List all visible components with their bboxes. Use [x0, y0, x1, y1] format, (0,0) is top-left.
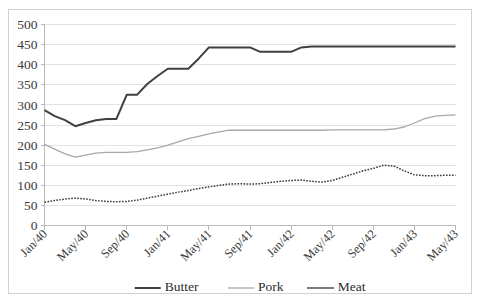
- x-tick-label: Sep/41: [221, 227, 255, 261]
- y-tick-label: 450: [17, 37, 38, 52]
- series-line-meat: [45, 165, 456, 202]
- x-axis: Jan/40May/40Sep/40Jan/41May/41Sep/41Jan/…: [17, 226, 461, 264]
- x-tick-label: Sep/40: [98, 227, 132, 261]
- x-tick-label: May/40: [54, 227, 91, 264]
- x-tick-label: Jan/43: [387, 227, 420, 260]
- y-tick-label: 400: [17, 57, 38, 72]
- series-line-butter: [45, 47, 456, 127]
- x-tick-label: May/43: [424, 227, 461, 264]
- x-tick-label: Jan/42: [264, 227, 297, 260]
- gridlines: [45, 25, 456, 226]
- y-tick-label: 500: [17, 17, 38, 32]
- legend-label-pork: Pork: [258, 279, 284, 294]
- chart-legend: ButterPorkMeat: [135, 279, 366, 294]
- x-tick-label: Jan/41: [141, 227, 174, 260]
- chart-canvas: 050100150200250300350400450500 Jan/40May…: [0, 0, 482, 303]
- legend-label-meat: Meat: [338, 279, 366, 294]
- x-tick-label: May/42: [301, 227, 338, 264]
- y-tick-label: 200: [17, 138, 38, 153]
- x-tick-label: Sep/42: [345, 227, 379, 261]
- data-series: [45, 47, 456, 203]
- y-tick-label: 150: [17, 158, 38, 173]
- y-tick-label: 50: [24, 198, 38, 213]
- x-tick-label: May/41: [177, 227, 214, 264]
- series-line-pork: [45, 115, 456, 157]
- y-tick-label: 300: [17, 98, 38, 113]
- y-tick-label: 250: [17, 118, 38, 133]
- y-axis: 050100150200250300350400450500: [17, 17, 44, 233]
- legend-label-butter: Butter: [165, 279, 199, 294]
- line-chart: 050100150200250300350400450500 Jan/40May…: [0, 0, 482, 303]
- y-tick-label: 100: [17, 178, 38, 193]
- y-tick-label: 350: [17, 77, 38, 92]
